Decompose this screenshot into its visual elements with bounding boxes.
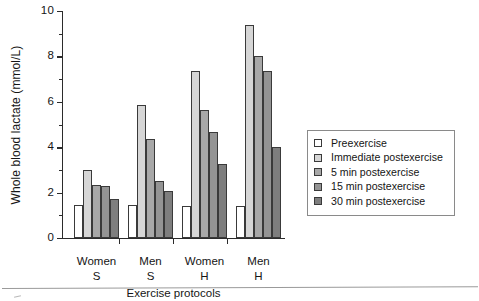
x-axis-group-label: MenH [224,254,294,284]
y-tick-major [57,56,62,57]
x-axis-title: Exercise protocols [62,287,285,299]
chart-figure: 0246810 Whole blood lactate (mmol/L) Wom… [0,0,479,301]
y-tick-minor [59,34,62,35]
y-tick-minor [59,215,62,216]
y-tick-major [57,238,62,239]
legend-item-label: Preexercise [331,138,387,149]
bar [137,105,146,238]
y-tick-major [57,102,62,103]
bar [200,110,209,238]
legend-item[interactable]: 30 min postexercise [314,194,448,209]
bar [209,132,218,238]
legend-item-label: 30 min postexercise [331,196,425,207]
bar [245,25,254,238]
bar [191,71,200,238]
y-tick-label: 6 [47,96,54,108]
bar [155,181,164,238]
y-tick-minor [59,79,62,80]
bar [236,206,245,238]
legend-item[interactable]: 5 min postexercise [314,165,448,180]
bar-group [128,11,173,238]
bar [272,147,281,238]
bar-group [74,11,119,238]
y-tick-major [57,11,62,12]
bar [218,164,227,238]
y-tick-label: 8 [47,51,54,63]
legend-swatch-icon [314,154,322,162]
legend-item[interactable]: Immediate postexercise [314,151,448,166]
y-tick-label: 10 [41,5,54,17]
legend-item-label: Immediate postexercise [331,152,443,163]
bar [164,191,173,238]
y-tick-minor [59,125,62,126]
bar [182,206,191,238]
legend-item[interactable]: 15 min postexercise [314,180,448,195]
scan-artifact-mark [14,295,21,298]
y-axis-line [62,11,63,238]
plot-area: 0246810 Whole blood lactate (mmol/L) Wom… [62,11,285,238]
x-axis-separator-tick [227,238,228,244]
bar [83,170,92,238]
x-axis-separator-tick [173,238,174,244]
bar-group [182,11,227,238]
y-tick-major [57,193,62,194]
x-label-line-2: H [224,269,294,284]
y-tick-label: 2 [47,187,54,199]
legend-swatch-icon [314,197,322,205]
y-axis-title: Whole blood lactate (mmol/L) [9,45,23,204]
legend-item-label: 15 min postexercise [331,181,425,192]
bar [254,56,263,238]
legend-item[interactable]: Preexercise [314,136,448,151]
x-label-line-1: Women [185,255,224,267]
legend-swatch-icon [314,139,322,147]
bar [92,185,101,238]
bar [101,186,110,238]
bar [146,139,155,238]
y-tick-label: 0 [47,232,54,244]
bar-group [236,11,281,238]
y-tick-minor [59,170,62,171]
x-axis-separator-tick [119,238,120,244]
legend-swatch-icon [314,168,322,176]
legend-swatch-icon [314,183,322,191]
bar [110,199,119,238]
bar [74,205,83,238]
y-tick-major [57,147,62,148]
x-label-line-1: Men [247,255,269,267]
x-label-line-1: Women [77,255,116,267]
bar [128,205,137,238]
legend: PreexerciseImmediate postexercise5 min p… [307,130,455,216]
y-tick-label: 4 [47,141,54,153]
legend-item-label: 5 min postexercise [331,167,419,178]
x-label-line-1: Men [139,255,161,267]
bar [263,71,272,238]
